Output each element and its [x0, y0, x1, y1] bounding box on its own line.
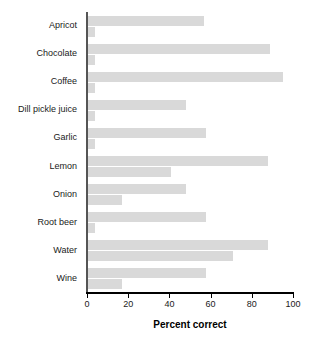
bar-series-2 — [87, 167, 171, 177]
category-axis-labels: Apricot Chocolate Coffee Dill pickle jui… — [0, 12, 82, 293]
bar-group — [87, 124, 293, 152]
bar-group — [87, 237, 293, 265]
x-axis-tick-label: 80 — [240, 299, 264, 309]
bar-series-1 — [87, 128, 206, 138]
x-axis-title: Percent correct — [87, 319, 293, 330]
bar-group — [87, 152, 293, 180]
category-label: Wine — [0, 265, 82, 293]
x-axis-tick-label: 60 — [199, 299, 223, 309]
bar-series-2 — [87, 195, 122, 205]
x-axis-tick — [128, 294, 129, 298]
bar-group — [87, 68, 293, 96]
x-axis-tick-label: 100 — [281, 299, 305, 309]
x-axis-tick — [252, 294, 253, 298]
bar-series-1 — [87, 16, 204, 26]
plot-area — [87, 12, 293, 293]
bar-series-1 — [87, 72, 283, 82]
x-axis-tick-label: 20 — [116, 299, 140, 309]
bar-group — [87, 209, 293, 237]
category-label: Garlic — [0, 124, 82, 152]
x-axis-tick — [169, 294, 170, 298]
bar-group — [87, 181, 293, 209]
category-label: Apricot — [0, 12, 82, 40]
category-label: Root beer — [0, 209, 82, 237]
bar-series-1 — [87, 156, 268, 166]
category-label: Chocolate — [0, 40, 82, 68]
bar-group — [87, 12, 293, 40]
bar-group — [87, 96, 293, 124]
bar-series-1 — [87, 100, 186, 110]
x-axis-tick — [87, 294, 88, 298]
category-label: Dill pickle juice — [0, 96, 82, 124]
x-axis-line — [86, 292, 294, 294]
x-axis-tick-label: 40 — [157, 299, 181, 309]
bar-series-2 — [87, 27, 95, 37]
bar-series-1 — [87, 44, 270, 54]
bar-group — [87, 265, 293, 293]
category-label: Onion — [0, 181, 82, 209]
category-label: Water — [0, 237, 82, 265]
bar-group — [87, 40, 293, 68]
bar-series-2 — [87, 111, 95, 121]
y-axis-line — [86, 12, 88, 293]
bar-series-2 — [87, 139, 95, 149]
bar-series-1 — [87, 184, 186, 194]
bar-series-1 — [87, 212, 206, 222]
bar-series-2 — [87, 55, 95, 65]
category-label: Lemon — [0, 152, 82, 180]
bar-series-1 — [87, 268, 206, 278]
bar-series-1 — [87, 240, 268, 250]
x-axis-tick — [293, 294, 294, 298]
category-label: Coffee — [0, 68, 82, 96]
bar-series-2 — [87, 223, 95, 233]
x-axis-tick — [211, 294, 212, 298]
bar-series-2 — [87, 83, 95, 93]
bar-series-2 — [87, 279, 122, 289]
bar-series-2 — [87, 251, 233, 261]
x-axis-tick-label: 0 — [75, 299, 99, 309]
bar-chart: Apricot Chocolate Coffee Dill pickle jui… — [0, 0, 318, 345]
